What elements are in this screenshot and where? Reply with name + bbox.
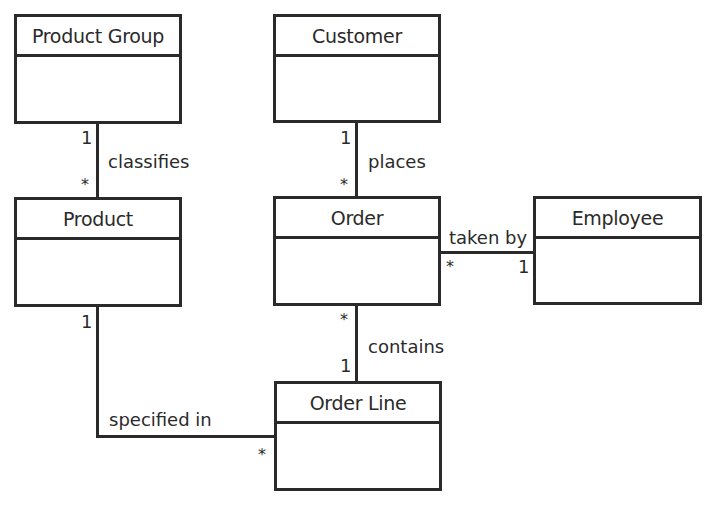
association-label-places: places — [368, 153, 426, 171]
association-label-contains: contains — [368, 338, 444, 356]
association-line-specified-in-horizontal — [96, 435, 275, 438]
class-order-line[interactable]: Order Line — [274, 381, 442, 491]
class-name: Order Line — [277, 384, 439, 424]
class-employee[interactable]: Employee — [533, 196, 702, 305]
association-line-contains — [355, 304, 358, 382]
class-name: Product Group — [17, 17, 179, 57]
class-order[interactable]: Order — [273, 196, 441, 306]
multiplicity-employee: 1 — [518, 258, 529, 276]
multiplicity-order-contains: * — [340, 312, 348, 328]
association-line-classifies — [96, 123, 99, 198]
multiplicity-customer: 1 — [340, 129, 351, 147]
association-line-specified-in-vertical — [96, 305, 99, 437]
association-line-taken-by — [440, 251, 534, 254]
multiplicity-order-line-specified-in: * — [258, 447, 266, 463]
class-name: Product — [17, 200, 179, 240]
class-product-group[interactable]: Product Group — [14, 14, 182, 124]
multiplicity-order-line-contains: 1 — [340, 357, 351, 375]
class-name: Customer — [276, 17, 438, 57]
class-name: Employee — [536, 199, 699, 239]
multiplicity-order-taken-by: * — [446, 259, 454, 275]
association-label-taken-by: taken by — [449, 229, 527, 247]
multiplicity-product-group: 1 — [81, 129, 92, 147]
association-label-specified-in: specified in — [109, 411, 212, 429]
multiplicity-product-specified-in: 1 — [81, 313, 92, 331]
class-customer[interactable]: Customer — [273, 14, 441, 123]
class-name: Order — [276, 199, 438, 239]
class-product[interactable]: Product — [14, 197, 182, 307]
multiplicity-order-places: * — [340, 177, 348, 193]
multiplicity-product-classifies: * — [81, 177, 89, 193]
association-label-classifies: classifies — [108, 153, 189, 171]
association-line-places — [355, 122, 358, 197]
